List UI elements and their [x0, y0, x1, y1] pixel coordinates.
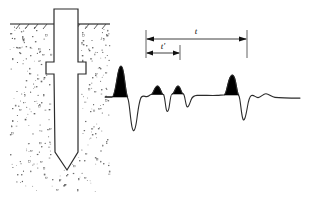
soil-stipple-dot: [50, 104, 51, 105]
soil-stipple-dot: [108, 114, 109, 115]
soil-stipple-dot: [79, 179, 80, 180]
soil-stipple-dot: [48, 129, 50, 130]
soil-stipple-dot: [36, 101, 37, 102]
soil-stipple-dot: [34, 61, 35, 62]
soil-stipple-dot: [39, 106, 41, 108]
soil-stipple-dot: [68, 174, 69, 175]
soil-stipple-dot: [41, 64, 42, 65]
soil-stipple-dot: [82, 33, 84, 34]
soil-stipple-dot: [106, 88, 107, 89]
soil-stipple-dot: [92, 83, 93, 84]
soil-stipple-dot: [109, 171, 110, 172]
soil-stipple-dot: [38, 61, 39, 62]
soil-stipple-dot: [39, 49, 40, 50]
soil-stipple-dot: [83, 41, 84, 42]
soil-stipple-dot: [32, 133, 33, 134]
pile-outline: [46, 9, 86, 170]
soil-stipple-dot: [26, 107, 27, 108]
soil-stipple-dot: [80, 177, 81, 178]
soil-stipple-dot: [91, 40, 92, 41]
soil-stipple-dot: [91, 111, 92, 112]
soil-stipple-dot: [18, 106, 19, 107]
soil-stipple-dot: [43, 54, 45, 55]
soil-stipple-dot: [29, 161, 31, 163]
soil-stipple-dot: [39, 105, 40, 106]
soil-stipple-dot: [105, 100, 107, 102]
soil-stipple-dot: [23, 40, 24, 41]
soil-stipple-dot: [73, 173, 74, 174]
soil-stipple-dot: [41, 81, 42, 82]
soil-stipple-dot: [16, 91, 17, 92]
soil-stipple-dot: [95, 164, 96, 165]
soil-stipple-dot: [105, 72, 107, 74]
soil-stipple-dot: [89, 50, 90, 51]
soil-stipple-dot: [93, 126, 94, 127]
soil-stipple-dot: [101, 131, 102, 132]
soil-stipple-dot: [30, 55, 31, 56]
echo-trace-curve: [105, 66, 300, 131]
soil-stipple-dot: [22, 175, 23, 176]
soil-stipple-dot: [85, 154, 87, 155]
soil-stipple-dot: [35, 42, 36, 43]
soil-stipple-dot: [101, 39, 102, 40]
soil-stipple-dot: [18, 48, 19, 49]
soil-stipple-dot: [50, 151, 51, 152]
soil-stipple-dot: [92, 134, 94, 135]
soil-stipple-dot: [103, 163, 104, 164]
soil-stipple-dot: [37, 154, 39, 155]
soil-stipple-dot: [17, 62, 18, 63]
soil-stipple-dot: [92, 61, 93, 62]
soil-stipple-dot: [14, 27, 15, 28]
soil-stipple-dot: [21, 94, 22, 95]
soil-stipple-dot: [72, 164, 73, 165]
soil-stipple-dot: [60, 176, 61, 177]
soil-stipple-dot: [26, 150, 27, 151]
soil-stipple-dot: [46, 177, 48, 179]
soil-stipple-dot: [95, 134, 96, 135]
soil-stipple-dot: [86, 46, 87, 47]
soil-stipple-dot: [90, 180, 91, 181]
soil-stipple-dot: [27, 114, 28, 115]
soil-stipple-dot: [30, 74, 31, 75]
soil-stipple-dot: [99, 128, 100, 129]
soil-stipple-dot: [50, 128, 52, 129]
soil-stipple-dot: [25, 102, 26, 103]
soil-stipple-dot: [49, 119, 50, 120]
soil-stipple-dot: [87, 180, 88, 181]
soil-stipple-dot: [44, 174, 46, 176]
soil-stipple-dot: [33, 163, 34, 164]
soil-stipple-dot: [33, 84, 34, 85]
soil-stipple-dot: [26, 80, 27, 81]
soil-stipple-dot: [99, 67, 100, 68]
soil-stipple-dot: [12, 133, 14, 135]
soil-stipple-dot: [101, 94, 102, 95]
soil-stipple-dot: [43, 168, 45, 170]
soil-stipple-dot: [25, 119, 27, 121]
ground-hatch-tick: [25, 24, 29, 29]
soil-stipple-dot: [16, 47, 17, 48]
soil-stipple-dot: [88, 88, 90, 90]
soil-stipple-dot: [81, 149, 82, 150]
arrowhead-right-icon: [173, 51, 180, 56]
soil-stipple-dot: [24, 95, 26, 97]
soil-stipple-dot: [34, 87, 35, 88]
soil-stipple-dot: [32, 186, 33, 187]
soil-stipple-dot: [29, 68, 30, 69]
soil-stipple-dot: [92, 77, 93, 78]
soil-stipple-dot: [44, 39, 45, 40]
soil-stipple-dot: [108, 101, 109, 102]
soil-stipple-dot: [16, 165, 17, 166]
soil-stipple-dot: [100, 58, 101, 59]
soil-stipple-dot: [107, 55, 108, 56]
soil-stipple-dot: [102, 50, 103, 51]
soil-stipple-dot: [18, 174, 19, 175]
soil-stipple-dot: [33, 165, 34, 166]
soil-stipple-dot: [49, 49, 50, 50]
soil-stipple-dot: [30, 47, 31, 48]
soil-stipple-dot: [109, 60, 110, 61]
soil-stipple-dot: [80, 160, 81, 161]
soil-stipple-dot: [78, 157, 79, 158]
soil-stipple-dot: [11, 155, 12, 156]
soil-stipple-dot: [82, 173, 83, 174]
soil-stipple-dot: [39, 52, 40, 53]
